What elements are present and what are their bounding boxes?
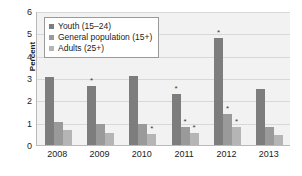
bar <box>223 114 232 145</box>
significance-marker: * <box>181 118 190 126</box>
legend-swatch-icon <box>49 35 54 40</box>
y-axis-tick-label: 4 <box>14 52 32 61</box>
bar-group-2011: *** <box>164 12 206 145</box>
y-axis-tick-label: 0 <box>14 142 32 151</box>
bar <box>232 127 241 145</box>
x-axis-tick-label: 2008 <box>47 150 67 159</box>
significance-marker: * <box>190 124 199 132</box>
significance-marker: * <box>87 77 96 85</box>
bar <box>129 76 138 145</box>
bar <box>138 124 147 145</box>
significance-marker: * <box>223 105 232 113</box>
bar <box>147 134 156 145</box>
bar <box>96 124 105 145</box>
x-axis-tick-label: 2013 <box>259 150 279 159</box>
significance-marker: * <box>232 118 241 126</box>
y-axis-tick-label: 1 <box>14 119 32 128</box>
y-axis-tick-label: 5 <box>14 30 32 39</box>
legend-item: Youth (15–24) <box>49 21 152 32</box>
bar <box>45 77 54 145</box>
legend-item: General population (15+) <box>49 32 152 43</box>
legend-swatch-icon <box>49 24 54 29</box>
bar <box>63 130 72 145</box>
bar <box>87 86 96 145</box>
legend-swatch-icon <box>49 46 54 51</box>
bar <box>190 133 199 145</box>
chart-legend: Youth (15–24)General population (15+)Adu… <box>44 17 159 58</box>
bar <box>54 122 63 145</box>
bar <box>181 127 190 145</box>
x-axis-tick-label: 2012 <box>216 150 236 159</box>
x-axis-tick-label: 2010 <box>132 150 152 159</box>
legend-label: Adults (25+) <box>58 44 104 53</box>
y-axis-tick-label: 3 <box>14 75 32 84</box>
bar-group-2013 <box>249 12 291 145</box>
significance-marker: * <box>147 125 156 133</box>
legend-label: General population (15+) <box>58 33 152 42</box>
y-axis-tick-label: 6 <box>14 8 32 17</box>
y-axis-tick-labels: 0123456 <box>14 12 32 146</box>
significance-marker: * <box>172 85 181 93</box>
bar <box>214 38 223 145</box>
x-axis-tick-label: 2011 <box>174 150 193 159</box>
significance-marker: * <box>214 29 223 37</box>
legend-item: Adults (25+) <box>49 43 152 54</box>
bar-group-2012: *** <box>206 12 248 145</box>
bar <box>256 89 265 145</box>
y-axis-tick-label: 2 <box>14 97 32 106</box>
bar-chart: Percent 0123456 ******** Youth (15–24)Ge… <box>0 0 302 176</box>
bar <box>274 135 283 145</box>
legend-label: Youth (15–24) <box>58 22 111 31</box>
bar <box>172 94 181 145</box>
x-axis-tick-labels: 200820092010201120122013 <box>36 150 290 164</box>
bar <box>105 133 114 145</box>
bar <box>265 127 274 145</box>
x-axis-tick-label: 2009 <box>89 150 109 159</box>
